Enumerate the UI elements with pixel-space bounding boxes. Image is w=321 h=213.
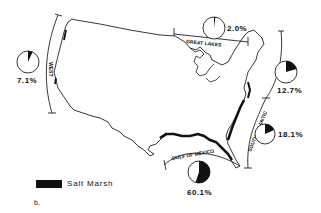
label-great-lakes: GREAT LAKES xyxy=(186,38,223,48)
us-outline xyxy=(54,19,264,168)
salt-marsh-atlantic xyxy=(228,100,244,140)
percent-great-lakes: 2.0% xyxy=(227,24,247,33)
pie-south-atlantic xyxy=(255,124,275,144)
pie-great-lakes xyxy=(203,17,225,39)
salt-marsh-west xyxy=(55,30,66,84)
legend-salt-marsh-swatch xyxy=(36,180,62,188)
pie-north-atlantic xyxy=(275,61,297,83)
percent-north-atlantic: 12.7% xyxy=(277,86,302,95)
percent-west: 7.1% xyxy=(17,76,37,85)
panel-label: b. xyxy=(34,199,40,206)
label-west: WEST xyxy=(48,62,54,76)
pie-gulf xyxy=(188,161,210,183)
great-lakes xyxy=(190,48,220,82)
percent-gulf: 60.1% xyxy=(187,188,212,197)
salt-marsh-ne xyxy=(248,82,250,98)
pie-west xyxy=(17,51,39,73)
label-gulf: GULF OF MEXICO xyxy=(171,148,215,161)
legend-salt-marsh-label: Salt Marsh xyxy=(67,179,113,188)
percent-south-atlantic: 18.1% xyxy=(278,130,303,139)
